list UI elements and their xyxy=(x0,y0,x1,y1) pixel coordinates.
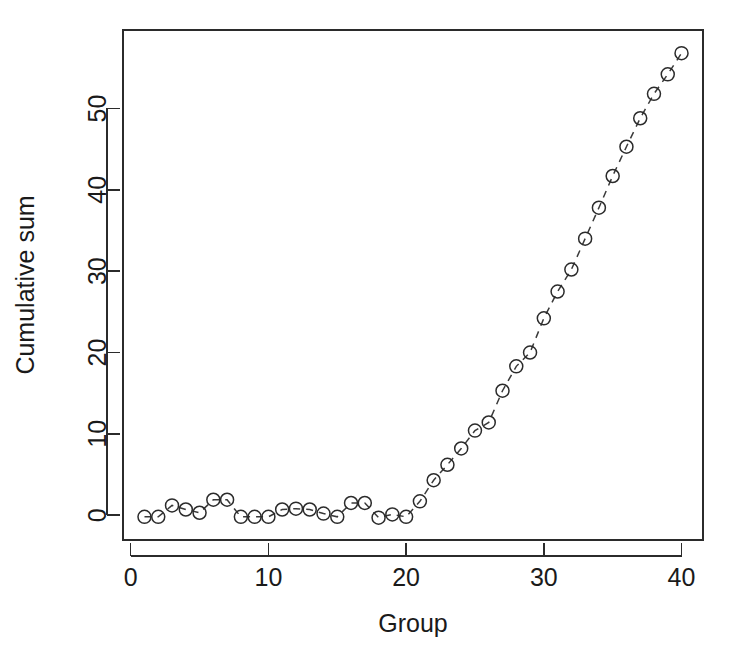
x-axis-title: Group xyxy=(378,609,447,637)
y-axis-title: Cumulative sum xyxy=(11,195,39,374)
x-axis-tick-label: 20 xyxy=(392,563,420,591)
chart-figure: 01020304050 010203040 Group Cumulative s… xyxy=(0,0,741,656)
y-axis-tick-label: 10 xyxy=(83,420,111,448)
y-axis-tick-label: 20 xyxy=(83,339,111,367)
y-axis-tick-label: 50 xyxy=(83,95,111,123)
x-axis-tick-label: 0 xyxy=(124,563,138,591)
x-axis-tick-label: 30 xyxy=(530,563,558,591)
scatter-plot-canvas: 01020304050 010203040 Group Cumulative s… xyxy=(0,0,741,656)
figure-background xyxy=(0,0,741,656)
x-axis-tick-label: 10 xyxy=(255,563,283,591)
y-axis-tick-label: 40 xyxy=(83,176,111,204)
x-axis-tick-label: 40 xyxy=(668,563,696,591)
y-axis-tick-label: 0 xyxy=(83,508,111,522)
y-axis-tick-label: 30 xyxy=(83,257,111,285)
